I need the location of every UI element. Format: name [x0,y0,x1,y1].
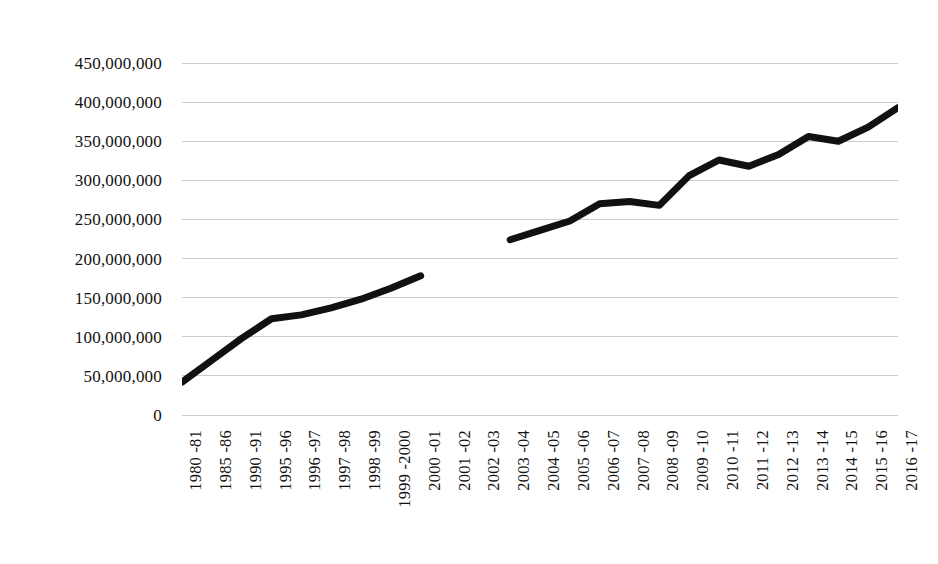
x-tick-label: 2013 -14 [815,430,832,491]
x-tick-label: 2011 -12 [755,430,772,490]
x-tick-label: 2007 -08 [636,430,653,491]
x-tick-label: 1997 -98 [337,430,354,491]
x-axis: 1980 -811985 -861990 -911995 -961996 -97… [0,0,938,564]
x-tick-label: 2000 -01 [427,430,444,491]
x-tick-label: 1985 -86 [218,430,235,491]
x-tick-label: 1980 -81 [188,430,205,491]
x-tick-label: 1995 -96 [278,430,295,491]
x-tick-label: 2009 -10 [695,430,712,491]
x-tick-label: 2010 -11 [725,430,742,490]
x-tick-label: 2004 -05 [546,430,563,491]
x-tick-label: 1996 -97 [307,430,324,491]
x-tick-label: 2016 -17 [904,430,921,491]
x-tick-label: 2006 -07 [606,430,623,491]
x-tick-label: 2014 -15 [844,430,861,491]
x-tick-label: 2001 -02 [457,430,474,491]
x-tick-label: 2003 -04 [516,430,533,491]
x-tick-label: 1990 -91 [248,430,265,491]
x-tick-label: 2015 -16 [874,430,891,491]
x-tick-label: 1999 -2000 [397,430,414,508]
x-tick-label: 2012 -13 [785,430,802,491]
x-tick-label: 2008 -09 [665,430,682,491]
line-chart: 450,000,000400,000,000350,000,000300,000… [0,0,938,564]
x-tick-label: 1998 -99 [367,430,384,491]
x-tick-label: 2002 -03 [486,430,503,491]
x-tick-label: 2005 -06 [576,430,593,491]
